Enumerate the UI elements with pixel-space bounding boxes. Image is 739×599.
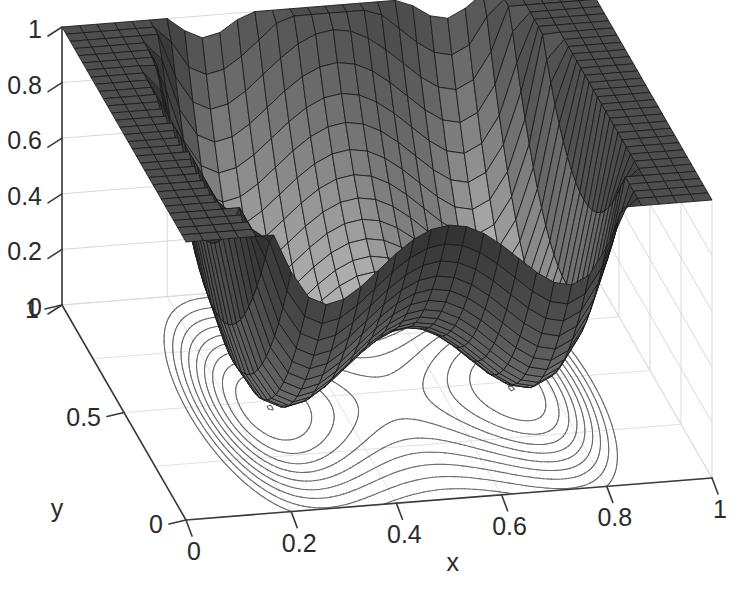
z-tick-label-0.8: 0.8 bbox=[7, 71, 42, 99]
y-tick-label-0.5: 0.5 bbox=[66, 403, 101, 431]
z-tick-label-0.2: 0.2 bbox=[7, 237, 42, 265]
z-tick-label-0.6: 0.6 bbox=[7, 126, 42, 154]
y-axis-title: y bbox=[51, 494, 64, 522]
x-tick-label-0.4: 0.4 bbox=[387, 520, 422, 548]
z-tick-label-1: 1 bbox=[28, 15, 42, 43]
x-tick-label-0.8: 0.8 bbox=[597, 503, 632, 531]
y-tick-label-0: 0 bbox=[149, 510, 163, 538]
z-tick-label-0: 0 bbox=[28, 293, 42, 321]
x-tick-label-0.6: 0.6 bbox=[492, 512, 527, 540]
plot-figure: 00.20.40.60.8100.5100.20.40.60.81 x y bbox=[0, 0, 739, 599]
x-tick-label-0: 0 bbox=[187, 537, 201, 565]
x-tick-label-0.2: 0.2 bbox=[282, 529, 317, 557]
surface-plot-canvas: 00.20.40.60.8100.5100.20.40.60.81 x y bbox=[0, 0, 739, 599]
x-axis-title: x bbox=[446, 548, 459, 576]
mesh-surface bbox=[62, 0, 712, 407]
x-tick-label-1: 1 bbox=[713, 495, 727, 523]
z-tick-label-0.4: 0.4 bbox=[7, 182, 42, 210]
